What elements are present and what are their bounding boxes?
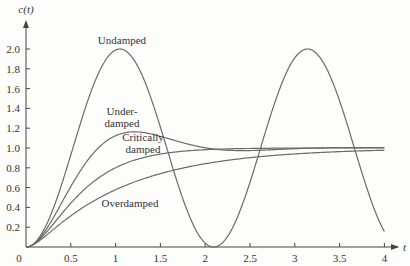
x-tick-label: 4 (382, 252, 388, 264)
y-tick-label: 1.6 (6, 83, 20, 95)
y-tick-label: 0.4 (6, 201, 20, 213)
y-tick-label: 1.8 (6, 63, 20, 75)
label-undamped: Undamped (98, 34, 147, 46)
label-critically-damped: damped (126, 143, 161, 155)
y-tick-label: 0.6 (6, 182, 20, 194)
curve-critically-damped (26, 148, 384, 247)
x-axis-label: t (403, 241, 407, 253)
y-tick-label: 1.2 (6, 122, 20, 134)
x-tick-label: 2 (202, 252, 208, 264)
label-overdamped: Overdamped (102, 197, 159, 209)
x-axis-arrow-icon (391, 244, 399, 250)
label-critically-damped: Critically (122, 131, 164, 143)
label-underdamped: damped (105, 117, 140, 129)
curve-overdamped (26, 150, 384, 247)
y-tick-label: 2.0 (6, 43, 20, 55)
x-tick-label: 0.5 (64, 252, 78, 264)
label-underdamped: Under- (107, 105, 138, 117)
axes: tc(t)00.511.522.533.540.20.40.60.81.01.2… (6, 3, 407, 264)
curves (26, 49, 384, 247)
x-tick-label: 3.5 (333, 252, 347, 264)
y-tick-label: 1.4 (6, 102, 20, 114)
x-tick-label: 1 (113, 252, 119, 264)
x-tick-label: 3 (292, 252, 298, 264)
y-tick-label: 1.0 (6, 142, 20, 154)
y-axis-label: c(t) (18, 3, 34, 16)
y-tick-label: 0.8 (6, 162, 20, 174)
y-tick-label: 0.2 (6, 221, 20, 233)
x-tick-label: 2.5 (243, 252, 257, 264)
x-tick-label: 0 (16, 252, 22, 264)
y-axis-arrow-icon (23, 20, 29, 28)
step-response-chart: tc(t)00.511.522.533.540.20.40.60.81.01.2… (0, 0, 410, 266)
x-tick-label: 1.5 (154, 252, 168, 264)
